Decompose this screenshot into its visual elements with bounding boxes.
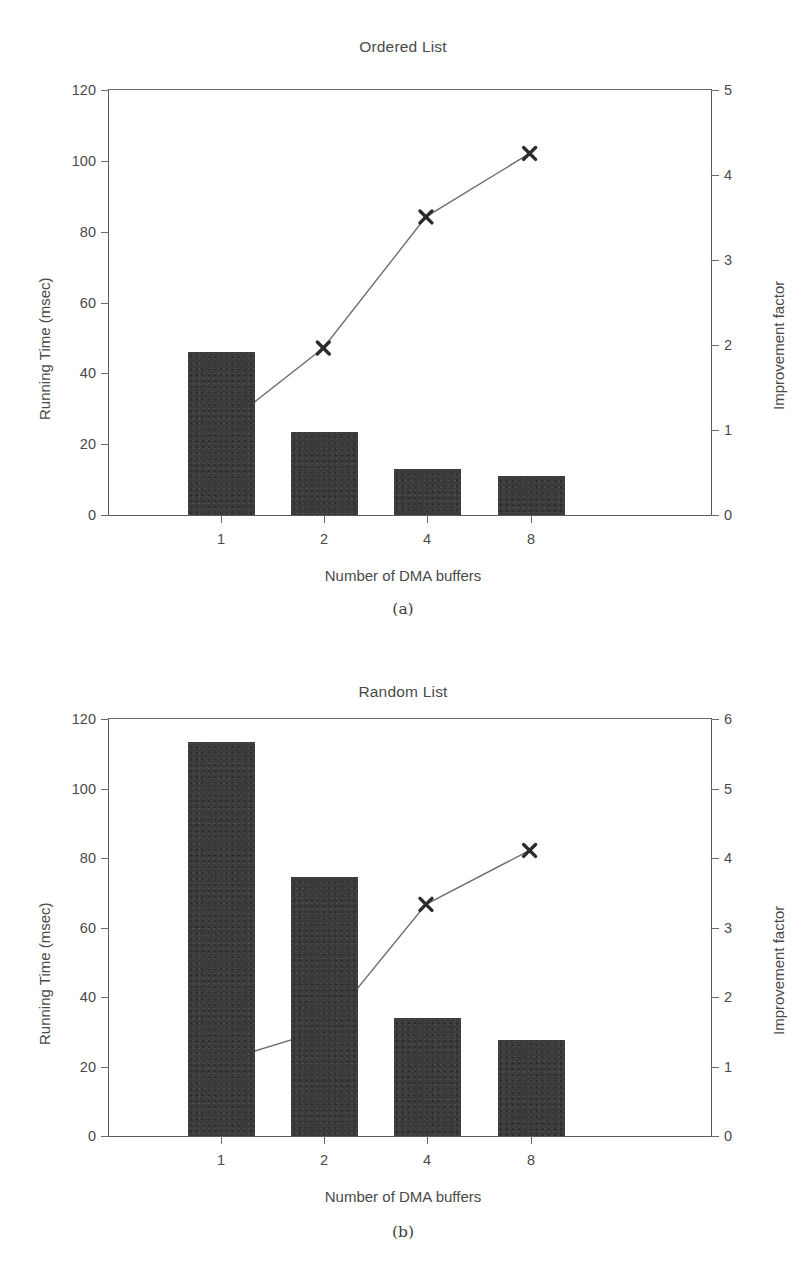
y-tick (101, 719, 109, 720)
y-tick-label: 40 (80, 989, 96, 1005)
x-marker (420, 898, 432, 910)
y-axis-title-a: Running Time (msec) (36, 277, 53, 420)
x-axis-title-a: Number of DMA buffers (0, 567, 806, 584)
y-tick-label: 100 (72, 153, 96, 169)
y-tick (101, 373, 109, 374)
y2-tick (711, 997, 719, 998)
bar (291, 877, 358, 1136)
y2-tick (711, 858, 719, 859)
y-tick-label: 80 (80, 850, 96, 866)
y-tick-label: 20 (80, 436, 96, 452)
y2-tick (711, 789, 719, 790)
y2-tick-label: 2 (724, 989, 732, 1005)
line-path (221, 850, 530, 1061)
y-tick (101, 1067, 109, 1068)
y2-tick (711, 175, 719, 176)
x-marker (524, 844, 536, 856)
y2-axis-title-b: Improvement factor (770, 906, 787, 1035)
y2-tick (711, 90, 719, 91)
y-tick (101, 997, 109, 998)
y-tick (101, 161, 109, 162)
x-marker (317, 342, 329, 354)
x-marker (524, 147, 536, 159)
x-tick-label: 2 (320, 1152, 328, 1168)
y-tick-label: 120 (72, 711, 96, 727)
bar (394, 469, 461, 515)
y-tick-label: 0 (88, 1128, 96, 1144)
y2-tick-label: 0 (724, 507, 732, 523)
y-tick (101, 232, 109, 233)
x-tick-label: 4 (423, 1152, 431, 1168)
y2-tick (711, 719, 719, 720)
figure-panel-b: Random List 02040608010012001234561248 R… (0, 645, 806, 1285)
y-tick (101, 1136, 109, 1137)
y-tick (101, 444, 109, 445)
figure-caption-b: (b) (0, 1223, 806, 1241)
x-tick (427, 515, 428, 523)
x-tick-label: 1 (217, 531, 225, 547)
y-tick (101, 515, 109, 516)
bar (188, 352, 255, 515)
y2-tick-label: 4 (724, 850, 732, 866)
y2-tick (711, 1136, 719, 1137)
x-tick (221, 515, 222, 523)
y2-tick (711, 430, 719, 431)
bar (394, 1018, 461, 1136)
y2-tick (711, 1067, 719, 1068)
y2-tick-label: 1 (724, 422, 732, 438)
line-path (221, 153, 530, 428)
y-tick (101, 303, 109, 304)
y-tick-label: 80 (80, 224, 96, 240)
y2-axis-title-a: Improvement factor (770, 281, 787, 410)
y-tick (101, 858, 109, 859)
y-tick-label: 60 (80, 295, 96, 311)
x-tick (531, 1136, 532, 1144)
bar (498, 1040, 565, 1136)
y2-tick (711, 345, 719, 346)
figure-caption-a: (a) (0, 600, 806, 618)
x-tick-label: 8 (527, 531, 535, 547)
y-tick (101, 90, 109, 91)
y-tick-label: 0 (88, 507, 96, 523)
x-tick (221, 1136, 222, 1144)
chart-title-a: Ordered List (0, 38, 806, 56)
plot-area-b: 02040608010012001234561248 (108, 718, 712, 1137)
x-tick (427, 1136, 428, 1144)
y2-tick-label: 2 (724, 337, 732, 353)
y2-tick-label: 3 (724, 252, 732, 268)
y2-tick-label: 6 (724, 711, 732, 727)
bar (498, 476, 565, 515)
x-tick-label: 2 (320, 531, 328, 547)
y-axis-title-b: Running Time (msec) (36, 902, 53, 1045)
y-tick-label: 20 (80, 1059, 96, 1075)
x-axis-title-b: Number of DMA buffers (0, 1188, 806, 1205)
x-tick (324, 515, 325, 523)
bar (188, 742, 255, 1136)
x-tick-label: 4 (423, 531, 431, 547)
y2-tick-label: 5 (724, 82, 732, 98)
y-tick-label: 40 (80, 365, 96, 381)
y2-tick-label: 1 (724, 1059, 732, 1075)
x-tick-label: 8 (527, 1152, 535, 1168)
x-tick (531, 515, 532, 523)
y2-tick-label: 3 (724, 920, 732, 936)
x-tick (324, 1136, 325, 1144)
y-tick-label: 100 (72, 781, 96, 797)
y2-tick (711, 515, 719, 516)
x-tick-label: 1 (217, 1152, 225, 1168)
chart-title-b: Random List (0, 683, 806, 701)
x-marker (420, 211, 432, 223)
y-tick-label: 120 (72, 82, 96, 98)
y2-tick (711, 260, 719, 261)
y2-tick-label: 0 (724, 1128, 732, 1144)
y-tick (101, 928, 109, 929)
y2-tick-label: 5 (724, 781, 732, 797)
bar (291, 432, 358, 515)
y-tick (101, 789, 109, 790)
plot-area-a: 0204060801001200123451248 (108, 89, 712, 516)
figure-panel-a: Ordered List 0204060801001200123451248 R… (0, 0, 806, 645)
y2-tick (711, 928, 719, 929)
y2-tick-label: 4 (724, 167, 732, 183)
y-tick-label: 60 (80, 920, 96, 936)
